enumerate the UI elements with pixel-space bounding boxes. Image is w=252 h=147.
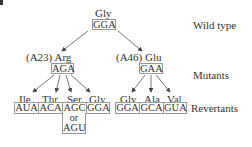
revertant-a23-codon-0: AUA <box>15 103 39 113</box>
mutant-a23-amino-acid: Arg <box>54 51 71 63</box>
row-label-revertants: Revertants <box>191 102 238 114</box>
arrow-arg-to-ile <box>33 75 54 92</box>
revertant-a23-codon-1: ACA <box>39 103 63 113</box>
arrow-arg-to-thr <box>56 75 60 92</box>
revertant-a23-codon-3: GGA <box>87 103 109 113</box>
arrow-arg-to-ser <box>66 75 71 92</box>
mutant-a23-label: (A23) Arg <box>26 51 71 63</box>
revertant-ser-alt-codon: AGU <box>63 123 85 133</box>
row-label-wild-type: Wild type <box>193 19 236 31</box>
revertant-a46-codon-row: GGA GCA GUA <box>115 102 187 114</box>
wild-type-codon-box: GGA <box>92 19 116 30</box>
wild-type-amino-acid: Gly <box>95 7 112 19</box>
mutant-a46-position: (A46) <box>116 51 142 63</box>
mutant-a46-label: (A46) Glu <box>116 51 162 63</box>
mutant-a23-codon-box: AGA <box>51 63 74 74</box>
arrow-wt-to-arg <box>62 31 88 51</box>
revertant-a46-codon-1: GCA <box>140 103 164 113</box>
arrow-glu-to-gly <box>132 75 145 92</box>
revertant-a46-codon-2: GUA <box>164 103 186 113</box>
arrow-wt-to-glu <box>118 31 142 51</box>
mutant-a46-codon-box: GAA <box>139 63 163 74</box>
arrow-arg-to-gly <box>71 75 90 92</box>
arrow-glu-to-val <box>156 75 170 92</box>
revertant-ser-alt-box: or AGU <box>62 113 86 134</box>
revertant-a46-codon-0: GGA <box>116 103 140 113</box>
mutant-a23-position: (A23) <box>26 51 52 63</box>
row-label-mutants: Mutants <box>193 69 229 81</box>
mutant-a46-amino-acid: Glu <box>145 51 162 63</box>
